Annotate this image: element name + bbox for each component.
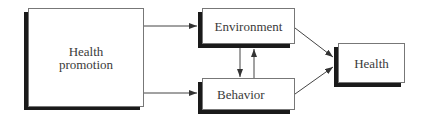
arrow-behavior-to-health <box>295 67 333 94</box>
diagram-canvas: Health promotion Environment Behavior He… <box>0 0 423 120</box>
arrows-layer <box>0 0 423 120</box>
arrow-environment-to-health <box>295 28 333 57</box>
